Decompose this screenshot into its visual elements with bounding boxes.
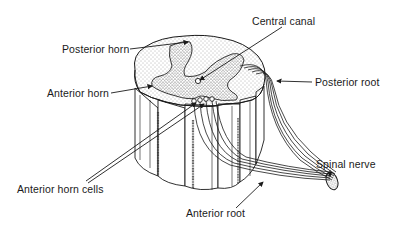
- label-anterior-horn: Anterior horn: [47, 87, 109, 99]
- label-central-canal: Central canal: [252, 15, 315, 27]
- leader-anterior-root: [236, 182, 263, 208]
- label-anterior-horn-cells: Anterior horn cells: [17, 183, 104, 195]
- central-canal-shape: [195, 78, 200, 83]
- spinal-cord-diagram: Central canal Posterior horn Anterior ho…: [0, 0, 393, 232]
- label-posterior-root: Posterior root: [315, 76, 379, 88]
- diagram-drawing: [0, 0, 393, 232]
- label-anterior-root: Anterior root: [186, 207, 245, 219]
- leader-posterior-root: [277, 81, 312, 82]
- label-posterior-horn: Posterior horn: [62, 43, 129, 55]
- label-spinal-nerve: Spinal nerve: [316, 158, 376, 170]
